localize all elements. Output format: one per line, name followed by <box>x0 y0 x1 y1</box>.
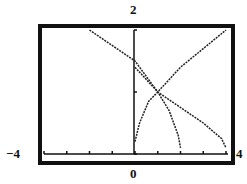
screen-border <box>40 26 233 163</box>
plot-curves <box>90 30 227 148</box>
graph-screen <box>0 0 247 184</box>
curve-2 <box>135 30 226 142</box>
axis-ticks <box>44 30 226 154</box>
curve-1 <box>135 67 181 148</box>
